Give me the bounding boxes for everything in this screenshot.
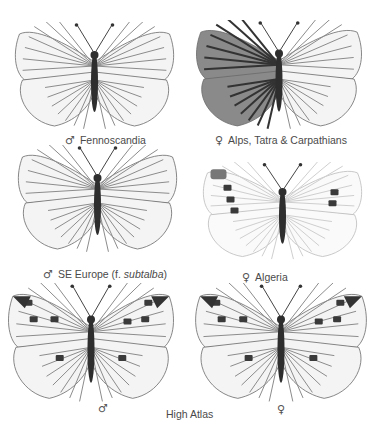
- right-hindwing: [281, 338, 361, 398]
- butterfly-illustration: [12, 22, 177, 132]
- antenna-left: [77, 24, 94, 52]
- butterfly-high-atlas-male: [5, 283, 177, 405]
- right-hindwing: [95, 72, 169, 126]
- butterfly-fennoscandia-male: [12, 22, 177, 132]
- wing-spot: [118, 355, 126, 361]
- wing-spot: [123, 318, 131, 324]
- right-forewing: [279, 30, 362, 79]
- right-hindwing: [279, 71, 356, 126]
- wing-spot: [144, 300, 152, 306]
- wing-spot: [141, 316, 149, 322]
- antenna-right: [92, 285, 110, 316]
- right-hindwing: [98, 195, 172, 249]
- wing-spot: [315, 318, 323, 324]
- antenna-club: [263, 163, 267, 167]
- right-forewing: [283, 171, 362, 214]
- label-high-atlas: High Atlas: [166, 408, 213, 420]
- antenna-club: [299, 163, 303, 167]
- wing-spot: [30, 316, 38, 322]
- wing-spot: [309, 355, 317, 361]
- antenna-club: [114, 146, 118, 150]
- wing-spot: [239, 316, 247, 322]
- wing-spot: [333, 316, 341, 322]
- head: [279, 188, 287, 196]
- body: [279, 189, 286, 244]
- wing-spot: [56, 355, 64, 361]
- left-hindwing: [20, 72, 94, 126]
- antenna-club: [108, 284, 112, 288]
- antenna-right: [280, 22, 298, 51]
- body: [91, 52, 98, 112]
- butterfly-high-atlas-female: [192, 283, 370, 405]
- male-symbol-icon: ♂: [43, 268, 53, 281]
- female-symbol-icon: ♀: [215, 134, 223, 147]
- antenna-right: [282, 285, 300, 316]
- head: [94, 174, 102, 182]
- head: [87, 316, 95, 324]
- left-hindwing: [23, 195, 97, 249]
- left-hindwing: [208, 207, 282, 256]
- head: [277, 316, 285, 324]
- butterfly-illustration: [192, 283, 370, 405]
- antenna-right: [99, 147, 116, 175]
- head: [91, 51, 99, 59]
- antenna-club: [111, 23, 115, 27]
- left-hindwing: [14, 338, 91, 398]
- antenna-club: [296, 21, 300, 25]
- apex-mark: [211, 169, 227, 179]
- body: [278, 316, 285, 383]
- female-symbol-icon: ♀: [277, 403, 285, 416]
- left-hindwing: [201, 338, 281, 398]
- butterfly-alps-female: [193, 20, 365, 132]
- right-forewing: [95, 32, 174, 80]
- antenna-left: [265, 164, 282, 189]
- wing-spot: [51, 316, 59, 322]
- right-forewing: [98, 155, 177, 203]
- antenna-right: [284, 164, 301, 189]
- wing-spot: [331, 189, 339, 195]
- butterfly-illustration: [15, 145, 180, 255]
- label-alps-tatra-carpathians: ♀Alps, Tatra & Carpathians: [215, 134, 347, 147]
- left-forewing: [18, 155, 97, 203]
- wing-spot: [218, 316, 226, 322]
- butterfly-illustration: [193, 20, 365, 132]
- wing-spot: [224, 185, 232, 191]
- butterfly-se-europe-male: [15, 145, 180, 255]
- wing-spot: [227, 197, 235, 203]
- antenna-club: [260, 284, 264, 288]
- antenna-left: [262, 285, 280, 316]
- antenna-right: [96, 24, 113, 52]
- wing-spot: [245, 355, 253, 361]
- left-hindwing: [202, 71, 279, 126]
- butterfly-algeria-female: [200, 162, 365, 262]
- right-hindwing: [283, 207, 357, 256]
- wing-spot: [336, 300, 344, 306]
- antenna-club: [299, 284, 303, 288]
- antenna-club: [75, 23, 79, 27]
- head: [275, 50, 283, 58]
- right-hindwing: [91, 338, 168, 398]
- left-forewing: [15, 32, 94, 80]
- antenna-left: [72, 285, 90, 316]
- butterfly-illustration: [5, 283, 177, 405]
- wing-spot: [231, 207, 239, 213]
- body: [276, 51, 283, 112]
- male-symbol-icon: ♂: [98, 402, 108, 415]
- butterfly-illustration: [200, 162, 365, 262]
- body: [94, 175, 101, 235]
- label-se-europe: ♂SE Europe (f. subtalba): [43, 268, 167, 281]
- antenna-club: [78, 146, 82, 150]
- wing-spot: [329, 200, 337, 206]
- antenna-club: [70, 284, 74, 288]
- antenna-left: [80, 147, 97, 175]
- body: [88, 316, 95, 383]
- antenna-club: [258, 21, 262, 25]
